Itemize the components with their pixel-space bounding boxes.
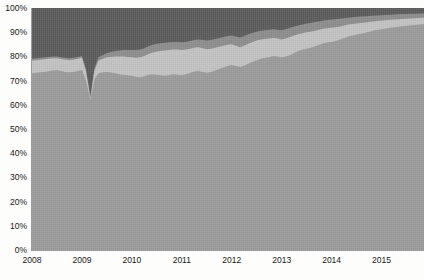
x-tick-label: 2012: [222, 255, 241, 265]
area-series-group: [32, 8, 424, 250]
x-tick-label: 2010: [122, 255, 141, 265]
stacked-area-chart: 0%10%20%30%40%50%60%70%80%90%100% 200820…: [0, 0, 424, 280]
x-tick-label: 2008: [23, 255, 42, 265]
x-tick-label: 2009: [72, 255, 91, 265]
y-axis-line: [31, 8, 32, 251]
y-tick-label: 20%: [10, 197, 27, 207]
y-tick-label: 10%: [10, 221, 27, 231]
y-axis: 0%10%20%30%40%50%60%70%80%90%100%: [0, 0, 30, 280]
y-tick-label: 90%: [10, 27, 27, 37]
y-tick-label: 70%: [10, 76, 27, 86]
y-tick-label: 30%: [10, 172, 27, 182]
x-tick-label: 2015: [372, 255, 391, 265]
y-tick-label: 100%: [5, 3, 27, 13]
x-axis-line: [31, 250, 424, 251]
x-tick-label: 2014: [322, 255, 341, 265]
y-tick-label: 50%: [10, 124, 27, 134]
x-tick-label: 2011: [173, 255, 191, 265]
y-tick-label: 40%: [10, 148, 27, 158]
y-tick-label: 60%: [10, 100, 27, 110]
y-tick-label: 80%: [10, 51, 27, 61]
x-tick-label: 2013: [272, 255, 291, 265]
y-tick-label: 0%: [15, 245, 27, 255]
plot-area: [32, 8, 424, 250]
